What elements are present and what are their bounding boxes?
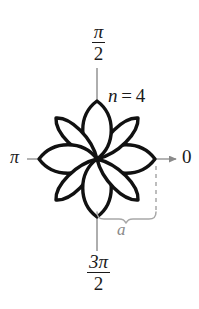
axis-label-pi-over-two: π 2	[0, 22, 199, 64]
polar-rose-figure: π 2 3π 2 π 0 n = 4 a	[0, 0, 199, 309]
amplitude-annotation: a	[117, 221, 126, 238]
axis-label-pi-over-two-numerator: π	[92, 22, 106, 43]
axis-label-pi-over-two-denominator: 2	[92, 43, 106, 63]
axis-label-pi: π	[10, 148, 19, 166]
curly-brace-icon	[97, 212, 156, 223]
petal-count-equals: =	[121, 85, 132, 106]
petal-count-value: 4	[136, 85, 146, 106]
axis-label-three-pi-over-two-denominator: 2	[87, 273, 110, 293]
axis-label-three-pi-over-two: 3π 2	[0, 252, 199, 294]
axis-label-zero: 0	[182, 147, 192, 166]
petal-count-annotation: n = 4	[108, 86, 145, 105]
petal-count-variable: n	[108, 85, 118, 106]
rose-curve	[39, 101, 155, 217]
axis-label-three-pi-over-two-numerator: 3π	[87, 252, 110, 273]
